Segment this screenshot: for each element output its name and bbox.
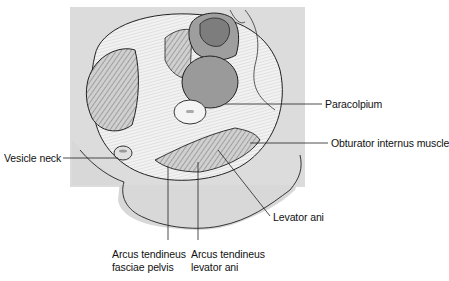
label-vesicle-neck: Vesicle neck (4, 152, 61, 165)
label-paracolpium: Paracolpium (325, 98, 382, 111)
label-obturator-internus: Obturator internus muscle (331, 137, 449, 150)
label-line: Arcus tendineus (112, 248, 172, 261)
label-line: levator ani (191, 261, 265, 274)
label-line: fasciae pelvis (112, 261, 172, 274)
label-line: Arcus tendineus (191, 248, 265, 261)
label-levator-ani: Levator ani (273, 211, 324, 224)
label-arcus-levator-ani: Arcus tendineus levator ani (191, 248, 265, 274)
label-arcus-fasciae-pelvis: Arcus tendineus fasciae pelvis (112, 248, 172, 274)
